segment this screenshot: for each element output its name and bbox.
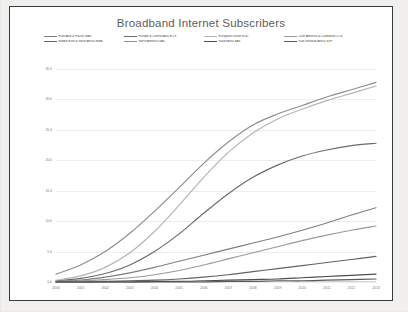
x-tick-label: 2004 [151,286,159,290]
x-tick-label: 2000 [52,286,60,290]
y-tick-label: 20.0 [45,158,52,162]
legend-label: Latin America & Caribbean LCN [299,35,343,38]
y-tick-label: 25.0 [45,128,52,132]
chart-title: Broadband Internet Subscribers [10,17,392,29]
series-line [56,226,376,281]
legend-label: South Asia SAS [219,40,241,43]
legend-label: European Union EUU [219,35,249,38]
chart-legend: East Asia & Pacific EASEurope & Central … [44,35,364,45]
x-tick-label: 2007 [225,286,233,290]
x-tick-label: 2001 [77,286,85,290]
x-tick-label: 2008 [249,286,257,290]
series-line [56,82,376,274]
x-tick-label: 2003 [126,286,134,290]
x-tick-label: 2006 [200,286,208,290]
legend-item[interactable]: South Asia SAS [204,40,284,43]
series-line [56,86,376,280]
legend-label: Sub-Saharan Africa SSF [299,40,333,43]
legend-label: North America NAC [139,40,166,43]
plot-area [56,69,376,282]
x-tick-label: 2011 [323,286,330,290]
legend-swatch-icon [284,41,297,43]
legend-swatch-icon [204,41,217,43]
y-tick-label: 0.0 [47,280,52,284]
legend-item[interactable]: Sub-Saharan Africa SSF [284,40,364,43]
legend-swatch-icon [124,41,137,43]
x-tick-label: 2012 [348,286,356,290]
legend-item[interactable]: Europe & Central Asia ECS [124,35,204,38]
y-tick-label: 15.0 [45,189,52,193]
legend-row: East Asia & Pacific EASEurope & Central … [44,35,364,38]
x-tick-label: 2010 [298,286,306,290]
series-line [56,208,376,282]
legend-label: Europe & Central Asia ECS [139,35,177,38]
legend-item[interactable]: European Union EUU [204,35,284,38]
y-tick-label: 10.0 [45,219,52,223]
y-tick-label: 35.0 [45,67,52,71]
x-tick-label: 2009 [274,286,282,290]
y-tick-label: 5.0 [47,250,52,254]
y-tick-label: 30.0 [45,97,52,101]
chart-frame: Broadband Internet Subscribers East Asia… [9,6,393,301]
legend-swatch-icon [204,36,217,38]
x-tick-label: 2005 [175,286,183,290]
series-lines [56,69,376,282]
legend-swatch-icon [44,41,57,43]
x-tick-label: 2002 [101,286,109,290]
x-tick-label: 2013 [372,286,380,290]
legend-swatch-icon [44,36,57,38]
series-line [56,256,376,282]
legend-swatch-icon [284,36,297,38]
legend-row: Middle East & North Africa MEANorth Amer… [44,40,364,43]
legend-item[interactable]: East Asia & Pacific EAS [44,35,124,38]
legend-swatch-icon [124,36,137,38]
legend-item[interactable]: Middle East & North Africa MEA [44,40,124,43]
legend-item[interactable]: North America NAC [124,40,204,43]
legend-item[interactable]: Latin America & Caribbean LCN [284,35,364,38]
legend-label: Middle East & North Africa MEA [59,40,103,43]
legend-label: East Asia & Pacific EAS [59,35,92,38]
plot-wrapper: 0.05.010.015.020.025.030.035.0 200020012… [56,69,376,282]
